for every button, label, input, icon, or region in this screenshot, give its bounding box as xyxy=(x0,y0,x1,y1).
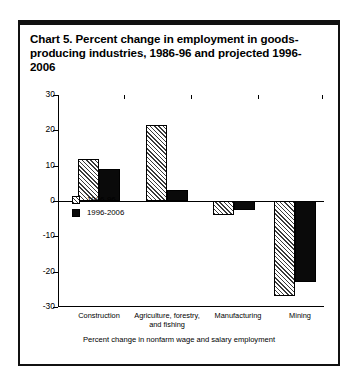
bar-manufacturing-1986-96 xyxy=(213,201,234,215)
y-tick-label-0: 0 xyxy=(50,195,55,205)
x-separator-tick-2 xyxy=(191,95,192,99)
screenshot-root: Chart 5. Percent change in employment in… xyxy=(0,0,358,380)
y-tick-label-minus10: -10 xyxy=(43,230,55,240)
bar-agriculture-1986-96 xyxy=(146,125,167,201)
chart-footnote: Percent change in nonfarm wage and salar… xyxy=(20,335,338,344)
y-tick-label-minus20: -20 xyxy=(43,266,55,276)
legend-swatch-hatched-icon xyxy=(72,196,80,204)
x-label-mining-line1: Mining xyxy=(270,311,330,320)
x-separator-tick-4 xyxy=(322,95,323,99)
x-label-manufacturing-line1: Manufacturing xyxy=(194,311,282,320)
y-tick-label-10: 10 xyxy=(46,160,55,170)
x-axis-bottom-line xyxy=(58,306,324,307)
bar-mining-1996-2006 xyxy=(295,201,316,282)
chart-title: Chart 5. Percent change in employment in… xyxy=(30,32,320,75)
chart-legend: 1986-96 1996-2006 xyxy=(72,195,124,221)
bar-agriculture-1996-2006 xyxy=(167,190,188,201)
legend-label-1986-96: 1986-96 xyxy=(87,195,116,204)
y-tick-label-minus30: -30 xyxy=(43,301,55,311)
y-tick-label-20: 20 xyxy=(46,124,55,134)
legend-label-1996-2006: 1996-2006 xyxy=(87,208,124,217)
x-separator-tick-3 xyxy=(258,95,259,99)
x-label-agriculture-line2: and fishing xyxy=(119,320,215,329)
legend-item-1986-96: 1986-96 xyxy=(72,195,124,204)
legend-item-1996-2006: 1996-2006 xyxy=(72,208,124,217)
x-separator-tick-1 xyxy=(124,95,125,99)
chart-figure-frame: Chart 5. Percent change in employment in… xyxy=(18,20,340,366)
bar-mining-1986-96 xyxy=(274,201,295,296)
legend-swatch-solid-icon xyxy=(72,209,80,217)
x-label-mining: Mining xyxy=(270,311,330,320)
x-label-manufacturing: Manufacturing xyxy=(194,311,282,320)
bar-manufacturing-1996-2006 xyxy=(234,201,255,210)
y-tick-label-30: 30 xyxy=(46,89,55,99)
